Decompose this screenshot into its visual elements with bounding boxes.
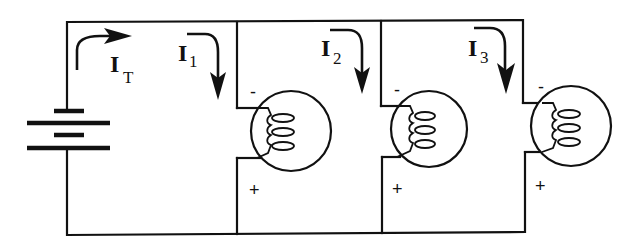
lamp-1-icon (251, 91, 331, 171)
lamp-3-minus: - (538, 77, 544, 97)
lamp-2-plus: + (392, 179, 403, 199)
lamp-3-plus: + (535, 176, 546, 196)
lamp-1-minus: - (250, 82, 256, 102)
label-branch1-current: I 1 (178, 40, 198, 71)
svg-text:1: 1 (189, 52, 198, 71)
svg-text:T: T (123, 68, 134, 87)
lamp-2-minus: - (394, 80, 400, 100)
lamp-1-plus: + (249, 180, 260, 200)
label-branch3-current: I 3 (468, 35, 489, 67)
svg-text:I: I (178, 40, 187, 66)
svg-text:3: 3 (480, 48, 489, 67)
label-branch2-current: I 2 (321, 35, 342, 68)
circuit-diagram: I T I 1 I 2 I 3 - + - + - + (0, 0, 635, 251)
current-arrow-total-icon (77, 28, 132, 70)
svg-text:I: I (110, 51, 119, 77)
lamp-2-icon (391, 91, 467, 167)
svg-text:2: 2 (333, 49, 342, 68)
svg-text:I: I (321, 35, 330, 61)
svg-text:I: I (468, 35, 477, 61)
battery-icon (27, 111, 110, 148)
lamp-3-icon (531, 86, 611, 166)
label-total-current: I T (110, 51, 134, 87)
